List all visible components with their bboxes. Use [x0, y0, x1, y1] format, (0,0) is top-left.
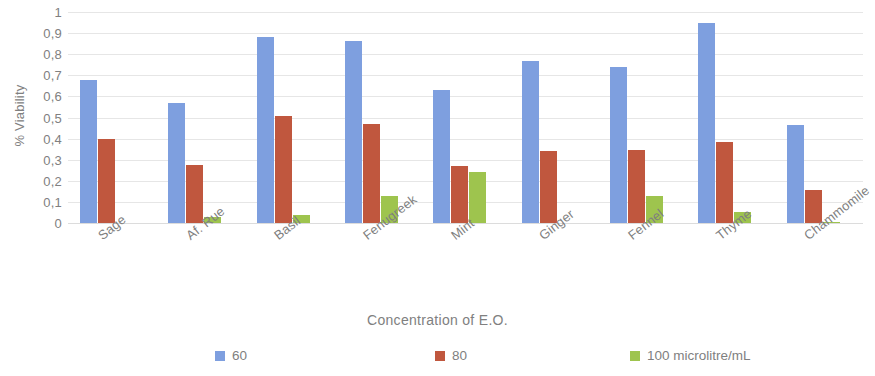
gridline	[68, 33, 863, 34]
y-axis-tick-label: 0,3	[43, 152, 62, 167]
bar	[610, 67, 627, 223]
legend-swatch-icon	[215, 351, 225, 361]
bar	[433, 90, 450, 223]
legend-item[interactable]: 60	[215, 348, 247, 363]
legend-label: 60	[232, 348, 247, 363]
gridline	[68, 118, 863, 119]
bar	[469, 172, 486, 223]
y-axis-tick-label: 0,5	[43, 110, 62, 125]
legend-swatch-icon	[435, 351, 445, 361]
legend-label: 100 microlitre/mL	[647, 348, 751, 363]
bar	[363, 124, 380, 223]
bar	[540, 151, 557, 223]
y-axis-tick-label: 0,1	[43, 194, 62, 209]
bar	[787, 125, 804, 223]
bar	[80, 80, 97, 223]
bar	[716, 142, 733, 223]
y-axis-tick-label: 0,2	[43, 173, 62, 188]
y-axis-tick-label: 0	[55, 216, 62, 231]
y-axis-tick-label: 0,8	[43, 47, 62, 62]
y-axis-tick-label: 1	[55, 5, 62, 20]
y-axis-tick-label: 0,6	[43, 89, 62, 104]
gridline	[68, 75, 863, 76]
bar	[628, 150, 645, 223]
gridline	[68, 96, 863, 97]
y-axis-tick-label: 0,4	[43, 131, 62, 146]
x-axis-title: Concentration of E.O.	[0, 312, 875, 328]
bar-chart: % Viability 00,10,20,30,40,50,60,70,80,9…	[0, 0, 875, 376]
y-axis-tick-label: 0,9	[43, 26, 62, 41]
plot-area	[68, 12, 863, 223]
bar	[698, 23, 715, 223]
chart-legend: 6080100 microlitre/mL	[0, 348, 875, 370]
gridline	[68, 139, 863, 140]
legend-label: 80	[452, 348, 467, 363]
y-axis-tick-label: 0,7	[43, 68, 62, 83]
bar	[451, 166, 468, 223]
gridline	[68, 12, 863, 13]
bar	[168, 103, 185, 223]
legend-swatch-icon	[630, 351, 640, 361]
bar	[345, 41, 362, 224]
bar	[186, 165, 203, 223]
bar	[275, 116, 292, 223]
bar	[98, 139, 115, 223]
gridline	[68, 160, 863, 161]
bar	[257, 37, 274, 223]
x-axis-category-labels: SageAf. RueBasilFenugreekMintGingerFenne…	[68, 223, 863, 318]
gridline	[68, 54, 863, 55]
bar	[522, 61, 539, 223]
legend-item[interactable]: 80	[435, 348, 467, 363]
legend-item[interactable]: 100 microlitre/mL	[630, 348, 751, 363]
